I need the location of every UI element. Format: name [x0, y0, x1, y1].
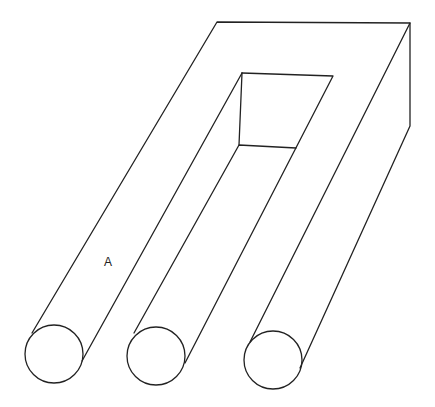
middle-prong-circle	[127, 327, 185, 385]
right-fold-edge	[250, 23, 410, 342]
label-a: A	[104, 255, 112, 269]
right-prong-circle	[244, 331, 302, 389]
outer-top-edge	[32, 22, 410, 368]
inner-opening-left-edge	[239, 73, 242, 145]
left-prong-circle	[25, 325, 83, 383]
trident-drawing	[0, 0, 435, 407]
inner-opening	[185, 73, 333, 363]
left-prong-inner-edge	[82, 73, 242, 361]
impossible-trident-figure: A	[0, 0, 435, 407]
